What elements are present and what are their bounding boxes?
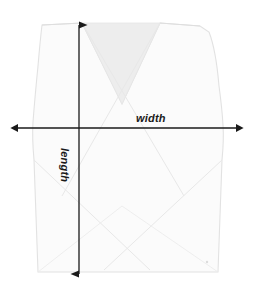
hem-mark-icon — [206, 261, 208, 263]
width-measurement-label: width — [136, 112, 166, 124]
garment-illustration — [0, 0, 256, 288]
length-measurement-label: length — [59, 148, 71, 182]
garment-measurement-diagram: width length — [0, 0, 256, 288]
